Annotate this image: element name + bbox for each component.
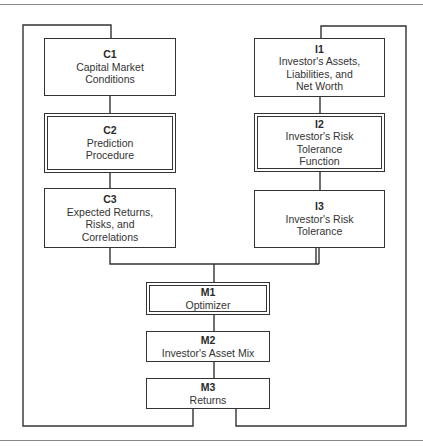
box-id: C1 <box>103 48 116 61</box>
box-label: Prediction Procedure <box>86 137 134 162</box>
box-id: I1 <box>315 43 324 56</box>
box-i2-risk-tolerance-function: I2 Investor's Risk Tolerance Function <box>254 113 385 172</box>
box-c2-prediction-procedure: C2 Prediction Procedure <box>44 113 176 173</box>
box-label: Capital Market Conditions <box>76 61 144 86</box>
box-id: M2 <box>201 334 216 347</box>
box-c1-capital-market-conditions: C1 Capital Market Conditions <box>44 38 176 96</box>
box-i1-investor-assets: I1 Investor's Assets, Liabilities, and N… <box>254 38 385 97</box>
box-m1-optimizer: M1 Optimizer <box>146 282 270 315</box>
box-id: C3 <box>103 193 116 206</box>
box-id: M3 <box>201 381 216 394</box>
box-i3-risk-tolerance: I3 Investor's Risk Tolerance <box>254 190 385 248</box>
box-id: C2 <box>103 124 116 137</box>
box-label: Investor's Risk Tolerance Function <box>286 130 354 168</box>
box-label: Investor's Assets, Liabilities, and Net … <box>279 55 360 93</box>
box-m2-asset-mix: M2 Investor's Asset Mix <box>146 331 270 362</box>
box-label: Optimizer <box>186 299 231 312</box>
box-label: Investor's Risk Tolerance <box>286 213 354 238</box>
box-id: M1 <box>201 286 216 299</box>
box-id: I2 <box>315 118 324 131</box>
box-id: I3 <box>315 200 324 213</box>
box-label: Returns <box>190 394 227 407</box>
box-label: Expected Returns, Risks, and Correlation… <box>67 206 153 244</box>
box-label: Investor's Asset Mix <box>162 347 254 360</box>
box-m3-returns: M3 Returns <box>146 378 270 409</box>
box-c3-expected-returns: C3 Expected Returns, Risks, and Correlat… <box>44 188 176 248</box>
